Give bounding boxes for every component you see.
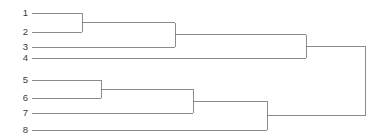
merge-12-3 [175, 23, 306, 48]
leaf-label-4: 4 [23, 52, 28, 63]
leaf-label-7: 7 [23, 107, 28, 118]
merge-1-2 [82, 13, 175, 32]
merge-5-6 [101, 80, 193, 98]
leaf-lines-group [32, 13, 306, 130]
leaf-label-3: 3 [23, 41, 28, 52]
dendrogram-canvas: 1 2 3 4 5 6 7 8 [0, 0, 383, 140]
leaf-label-5: 5 [23, 74, 28, 85]
merge-123-4 [306, 35, 365, 58]
merge-567-8 [267, 101, 365, 130]
leaf-label-8: 8 [23, 124, 28, 135]
leaf-label-2: 2 [23, 26, 28, 37]
dendrogram-figure: 1 2 3 4 5 6 7 8 [0, 0, 383, 140]
leaf-label-6: 6 [23, 92, 28, 103]
merge-56-7 [193, 89, 267, 113]
leaf-labels-group: 1 2 3 4 5 6 7 8 [23, 7, 28, 135]
leaf-label-1: 1 [23, 7, 28, 18]
